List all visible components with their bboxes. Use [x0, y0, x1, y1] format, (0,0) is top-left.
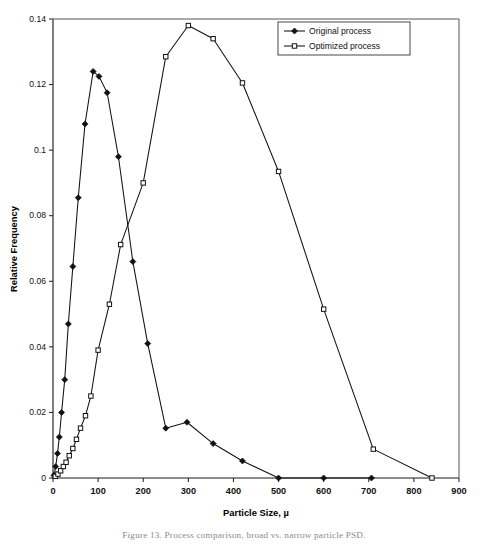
particle-size-distribution-chart: 00.020.040.060.080.10.120.14 01002003004…: [0, 0, 488, 547]
chart-legend[interactable]: Original processOptimized process: [278, 22, 410, 55]
legend-label: Optimized process: [309, 41, 380, 51]
data-point-marker: [240, 81, 244, 85]
data-point-marker: [141, 181, 145, 185]
data-point-marker: [64, 460, 68, 464]
y-tick-label: 0.08: [29, 210, 46, 220]
y-tick-label: 0.14: [29, 14, 46, 24]
x-tick-label: 200: [136, 486, 151, 496]
x-tick-label: 700: [361, 486, 376, 496]
data-point-marker: [71, 446, 75, 450]
data-point-marker: [118, 242, 122, 246]
x-tick-label: 800: [406, 486, 421, 496]
data-point-marker: [276, 169, 280, 173]
data-point-marker: [96, 348, 100, 352]
x-axis-title: Particle Size, µ: [223, 507, 289, 518]
data-point-marker: [83, 414, 87, 418]
data-point-marker: [58, 469, 62, 473]
data-point-marker: [186, 23, 190, 27]
x-tick-label: 0: [50, 486, 55, 496]
y-tick-label: 0.04: [29, 342, 46, 352]
legend-label: Original process: [309, 26, 371, 36]
data-point-marker: [164, 55, 168, 59]
y-tick-label: 0.06: [29, 276, 46, 286]
x-tick-label: 100: [90, 486, 105, 496]
data-point-marker: [321, 307, 325, 311]
data-point-marker: [211, 36, 215, 40]
data-point-marker: [74, 437, 78, 441]
figure-caption: Figure 13. Process comparison, broad vs.…: [0, 530, 488, 540]
data-point-marker: [67, 454, 71, 458]
x-tick-label: 500: [271, 486, 286, 496]
y-tick-label: 0.02: [29, 407, 46, 417]
data-point-marker: [61, 464, 65, 468]
y-tick-label: 0.1: [34, 145, 46, 155]
y-axis-title: Relative Frequency: [8, 205, 19, 292]
legend-marker: [292, 44, 296, 48]
data-point-marker: [89, 394, 93, 398]
figure-container: 00.020.040.060.080.10.120.14 01002003004…: [0, 0, 488, 547]
data-point-marker: [430, 476, 434, 480]
y-tick-label: 0.12: [29, 79, 46, 89]
y-tick-label: 0: [41, 473, 46, 483]
data-point-marker: [371, 447, 375, 451]
data-point-marker: [78, 426, 82, 430]
x-tick-label: 300: [181, 486, 196, 496]
x-tick-label: 600: [316, 486, 331, 496]
x-tick-label: 400: [226, 486, 241, 496]
data-point-marker: [107, 302, 111, 306]
x-tick-label: 900: [451, 486, 466, 496]
